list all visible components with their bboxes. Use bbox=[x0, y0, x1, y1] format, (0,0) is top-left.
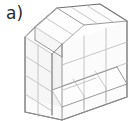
panel-label: a) bbox=[6, 3, 23, 23]
figure-container: a) bbox=[0, 0, 128, 121]
